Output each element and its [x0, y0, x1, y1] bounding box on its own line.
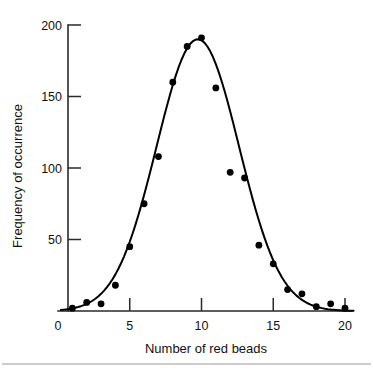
data-point: [69, 305, 76, 312]
frequency-distribution-chart: Frequency of occurrence Number of red be…: [0, 0, 373, 374]
data-point: [98, 300, 105, 307]
data-point: [126, 243, 133, 250]
data-point: [342, 305, 349, 312]
x-tick-label: 20: [338, 319, 352, 333]
data-point: [284, 286, 291, 293]
fitted-bell-curve: [61, 39, 354, 311]
data-point: [299, 290, 306, 297]
y-tick-label: 150: [41, 90, 62, 104]
chart-figure: Frequency of occurrence Number of red be…: [0, 0, 373, 374]
data-point: [141, 200, 148, 207]
data-point: [83, 299, 90, 306]
x-tick-label: 0: [55, 319, 62, 333]
axes-group: [58, 25, 352, 311]
data-point: [155, 153, 162, 160]
x-tick-label: 15: [266, 319, 280, 333]
y-tick-group: 50100150200: [41, 19, 81, 248]
y-tick-label: 50: [48, 233, 62, 247]
data-point: [212, 85, 219, 92]
data-point: [313, 303, 320, 310]
data-point: [169, 79, 176, 86]
data-point: [198, 34, 205, 41]
data-point: [227, 169, 234, 176]
x-tick-label: 5: [126, 319, 133, 333]
x-axis-label: Number of red beads: [145, 341, 268, 356]
data-point: [270, 260, 277, 267]
data-point: [241, 175, 248, 182]
data-point: [112, 282, 119, 289]
y-axis-label: Frequency of occurrence: [10, 104, 25, 248]
y-tick-label: 200: [41, 19, 62, 33]
data-point: [184, 43, 191, 50]
data-point: [327, 300, 334, 307]
x-tick-label: 10: [195, 319, 209, 333]
y-tick-label: 100: [41, 162, 62, 176]
data-point: [256, 242, 263, 249]
data-point-group: [69, 34, 348, 311]
